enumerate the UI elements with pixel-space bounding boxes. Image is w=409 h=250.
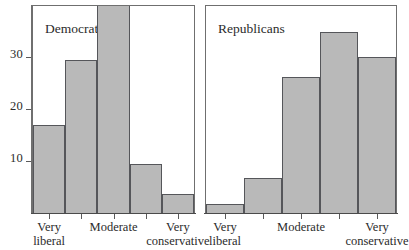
- x-axis-tick-label-line1: Very: [213, 220, 237, 234]
- plot-area-republicans: [206, 6, 396, 213]
- x-axis-tick-label-line2: conservative: [345, 235, 408, 249]
- x-axis-tick-label-line1: Moderate: [277, 220, 325, 234]
- bar: [65, 60, 97, 213]
- bar: [320, 32, 358, 213]
- bar: [206, 204, 244, 213]
- bar: [33, 125, 65, 213]
- y-axis-tick-label-30: 30: [10, 48, 23, 60]
- x-axis-tick-mark: [377, 214, 378, 219]
- x-axis-tick-mark: [114, 214, 115, 219]
- x-axis-tick-label-line2: conservative: [146, 235, 209, 249]
- x-axis-tick-mark: [146, 214, 147, 219]
- x-axis-tick-label: Moderate: [277, 221, 325, 235]
- x-axis-tick-label-line1: Very: [166, 220, 190, 234]
- x-axis-tick-mark: [49, 214, 50, 219]
- y-axis-tick-label-20: 20: [10, 100, 23, 112]
- y-axis: 30 20 10: [0, 0, 32, 250]
- x-axis-tick-mark: [339, 214, 340, 219]
- x-axis-tick-label: Veryliberal: [33, 221, 65, 248]
- x-axis-tick-label-line2: liberal: [33, 235, 65, 249]
- plot-area-democrats: [33, 6, 194, 213]
- x-axis-tick-mark: [178, 214, 179, 219]
- x-axis-tick-label-line2: liberal: [209, 235, 241, 249]
- bar: [162, 194, 194, 213]
- x-axis-tick-label: Veryconservative: [146, 221, 209, 248]
- x-axis-tick-label-line1: Moderate: [90, 220, 138, 234]
- bar: [282, 77, 320, 213]
- x-axis-tick-mark: [263, 214, 264, 219]
- bar: [130, 164, 162, 213]
- x-axis-tick-label-line1: Very: [37, 220, 61, 234]
- x-axis-tick-label: Veryconservative: [345, 221, 408, 248]
- bar: [244, 178, 282, 213]
- x-axis-tick-mark: [301, 214, 302, 219]
- y-axis-tick-label-10: 10: [10, 152, 23, 164]
- x-axis-tick-label-line1: Very: [365, 220, 389, 234]
- bar: [97, 5, 129, 213]
- x-axis-tick-mark: [225, 214, 226, 219]
- x-axis-tick-label: Moderate: [90, 221, 138, 235]
- bar: [358, 57, 396, 213]
- x-axis-tick-label: Veryliberal: [209, 221, 241, 248]
- panel-republicans: Republicans: [205, 5, 397, 213]
- x-axis-tick-mark: [81, 214, 82, 219]
- panel-democrats: Democrats: [32, 5, 195, 213]
